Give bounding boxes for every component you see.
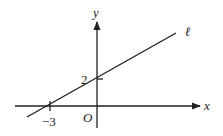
origin-label: O — [83, 110, 93, 125]
y-axis-label: y — [91, 5, 99, 20]
y-intercept-label: 2 — [81, 72, 88, 87]
x-intercept-label: −3 — [42, 114, 56, 129]
coordinate-diagram: y x ℓ 2 O −3 — [0, 0, 223, 136]
x-axis-label: x — [203, 98, 210, 113]
line-label: ℓ — [185, 24, 191, 39]
